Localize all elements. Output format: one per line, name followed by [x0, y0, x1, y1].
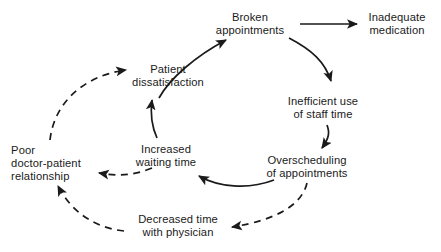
edge-broken-to-inefficient [289, 38, 331, 81]
node-poor-doctor-patient-relationship: Poor doctor-patient relationship [11, 144, 81, 184]
node-overscheduling-of-appointments: Overscheduling of appointments [266, 154, 347, 180]
node-increased-waiting-time: Increased waiting time [136, 143, 196, 169]
node-decreased-time-with-physician: Decreased time with physician [138, 213, 218, 239]
edge-inefficient-to-overscheduling [322, 125, 329, 148]
node-inefficient-use-of-staff-time: Inefficient use of staff time [288, 95, 358, 121]
node-patient-dissatisfaction: Patient dissatisfaction [132, 63, 204, 89]
edge-overscheduling-to-decreased [232, 183, 307, 227]
causal-loop-diagram: Broken appointments Inadequate medicatio… [0, 0, 441, 252]
node-inadequate-medication: Inadequate medication [369, 11, 426, 37]
node-broken-appointments: Broken appointments [216, 11, 284, 37]
edge-waiting-to-dissatisfaction [151, 100, 157, 138]
edge-decreased-to-poor [58, 186, 124, 231]
edge-overscheduling-to-waiting [199, 176, 274, 186]
edge-layer [0, 0, 441, 252]
edge-poor-to-dissatisfaction [50, 70, 126, 140]
